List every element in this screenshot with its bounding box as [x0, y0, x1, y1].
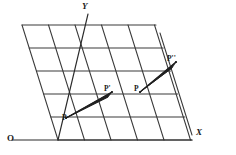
x-axis-label: X: [196, 128, 202, 137]
figure-canvas: O X Y P P' P P'': [0, 0, 236, 155]
vector-p-to-p-prime: [66, 92, 112, 118]
point-marker-p-mid: [139, 91, 141, 93]
grid-slanted-lines: [22, 25, 192, 140]
point-label-p: P: [62, 114, 67, 122]
grid-slanted-line: [49, 25, 85, 140]
y-axis-label: Y: [82, 2, 88, 11]
coordinate-axes: [12, 14, 192, 140]
grid-slanted-line: [155, 25, 191, 140]
grid-slanted-line: [128, 25, 164, 140]
grid-slanted-line: [22, 25, 58, 140]
grid-slanted-line: [102, 25, 138, 140]
grid-slanted-line: [75, 25, 111, 140]
point-label-p-double-prime: P'': [167, 55, 176, 63]
point-label-p-mid: P: [134, 85, 139, 93]
origin-label: O: [7, 134, 14, 143]
point-marker-p-prime: [111, 91, 113, 93]
grid-slanted-line: [160, 33, 192, 135]
point-label-p-prime: P': [104, 85, 111, 93]
